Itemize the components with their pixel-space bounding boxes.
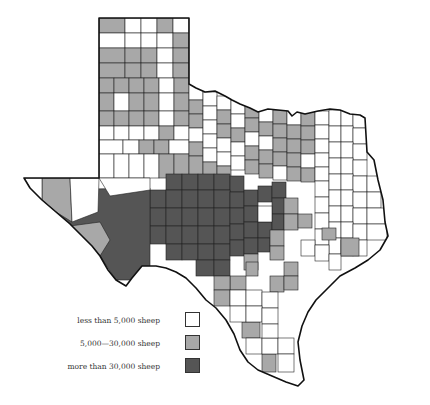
legend-swatch-high [185, 358, 200, 373]
legend-label: more than 30,000 sheep [67, 362, 160, 371]
north-central-counties [189, 84, 329, 182]
panhandle-counties [99, 18, 189, 178]
legend: less than 5,000 sheep 5,000—30,000 sheep… [60, 312, 200, 381]
legend-item-low: less than 5,000 sheep [60, 312, 200, 335]
legend-swatch-low [185, 312, 200, 327]
legend-item-medium: 5,000—30,000 sheep [60, 335, 200, 358]
legend-label: 5,000—30,000 sheep [80, 339, 160, 348]
legend-swatch-medium [185, 335, 200, 350]
legend-label: less than 5,000 sheep [77, 316, 160, 325]
legend-item-high: more than 30,000 sheep [60, 358, 200, 381]
